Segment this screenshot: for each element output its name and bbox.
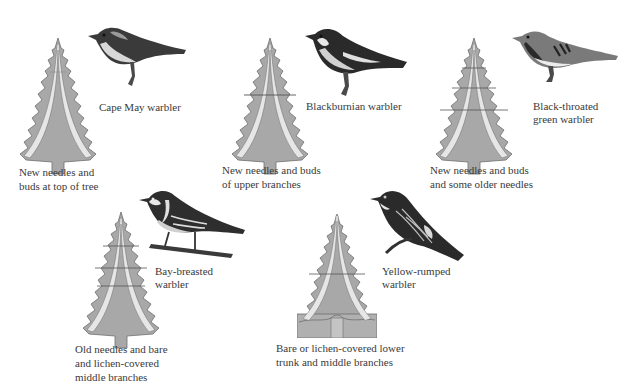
bird-name-black-throated-green: Black-throated green warbler: [533, 100, 598, 126]
black-throated-green-warbler-icon: [510, 28, 622, 84]
spruce-tree-icon: [230, 38, 310, 176]
bird-name-blackburnian: Blackburnian warbler: [306, 100, 402, 113]
yellow-rumped-warbler-icon: [368, 187, 468, 267]
cape-may-warbler-icon: [86, 24, 190, 94]
feeding-caption: Old needles and bare and lichen-covered …: [75, 342, 168, 384]
feeding-caption: Bare or lichen-covered lower trunk and m…: [276, 341, 405, 369]
spruce-tree-icon: [297, 214, 377, 338]
bird-name-yellow-rumped: Yellow-rumped warbler: [382, 265, 451, 291]
bay-breasted-warbler-icon: [137, 186, 249, 260]
spruce-tree-icon: [434, 38, 514, 176]
bird-name-bay-breasted: Bay-breasted warbler: [155, 265, 213, 291]
bird-name-cape-may: Cape May warbler: [99, 101, 181, 114]
blackburnian-warbler-icon: [303, 26, 411, 98]
feeding-caption: New needles and buds at top of tree: [19, 165, 98, 193]
